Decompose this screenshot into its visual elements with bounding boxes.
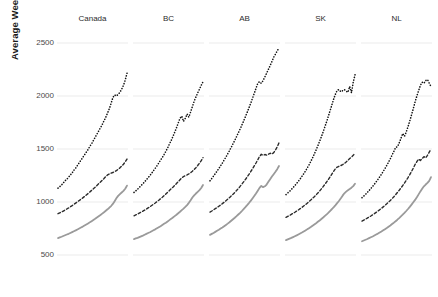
panel-title-nl: NL bbox=[361, 14, 432, 23]
line-series-dashed-mid-sk bbox=[286, 153, 355, 217]
line-series-solid-low-bc bbox=[134, 185, 203, 239]
panel-title-bc: BC bbox=[133, 14, 204, 23]
line-series-dotted-high-bc bbox=[134, 82, 203, 193]
line-series-dashed-mid-nl bbox=[362, 149, 431, 221]
line-series-dashed-mid-canada bbox=[58, 159, 127, 214]
line-series-solid-low-ab bbox=[210, 166, 279, 235]
line-series-dotted-high-sk bbox=[286, 75, 355, 195]
line-series-solid-low-canada bbox=[58, 186, 127, 238]
panel-title-ab: AB bbox=[209, 14, 280, 23]
line-series-dashed-mid-bc bbox=[134, 158, 203, 216]
plot-area bbox=[0, 0, 438, 297]
line-series-dotted-high-ab bbox=[210, 48, 279, 181]
line-series-dotted-high-nl bbox=[362, 80, 431, 198]
panel-title-canada: Canada bbox=[57, 14, 128, 23]
line-series-solid-low-nl bbox=[362, 177, 431, 241]
panel-title-sk: SK bbox=[285, 14, 356, 23]
chart-figure: Average Weekly Earnings ($) 500100015002… bbox=[0, 0, 438, 297]
